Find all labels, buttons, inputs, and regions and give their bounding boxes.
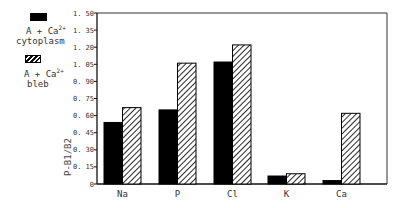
bar-na-bleb <box>123 108 142 184</box>
y-tick-label: 0. 60 <box>73 112 94 120</box>
y-tick-label: 1. 20 <box>73 44 94 52</box>
bar-p-cytoplasm <box>159 110 178 184</box>
bar-p-bleb <box>178 63 197 184</box>
y-tick-label: 0. 75 <box>73 95 94 103</box>
x-tick-label: K <box>284 189 290 199</box>
x-tick-label: Na <box>117 189 128 199</box>
y-tick-label: 1. 35 <box>73 27 94 35</box>
legend-swatch-cytoplasm <box>30 13 47 21</box>
legend-swatch-bleb <box>25 55 41 63</box>
bar-k-cytoplasm <box>268 176 287 184</box>
x-axis-labels: NaPClKCa <box>117 189 347 199</box>
bar-k-bleb <box>287 174 306 184</box>
y-tick-label: 1. 05 <box>73 61 94 69</box>
bars <box>104 45 360 184</box>
y-tick-label: 0. 45 <box>73 129 94 137</box>
bar-cl-bleb <box>233 45 252 184</box>
y-tick-label: 0. 15 <box>73 163 94 171</box>
y-tick-label: 0 <box>90 181 94 189</box>
y-tick-label: 0. 30 <box>73 146 94 154</box>
legend-label-bleb: A + Ca2+ bleb <box>24 66 64 89</box>
bar-na-cytoplasm <box>104 122 123 184</box>
x-tick-label: Cl <box>227 189 238 199</box>
y-tick-label: 1. 50 <box>73 10 94 18</box>
bar-cl-cytoplasm <box>214 62 233 184</box>
y-tick-label: 0. 90 <box>73 78 94 86</box>
x-tick-label: Ca <box>336 189 347 199</box>
bar-ca-cytoplasm <box>323 181 342 184</box>
y-axis-label: P-B1/B2 <box>63 138 73 176</box>
x-tick-label: P <box>175 189 181 199</box>
bar-ca-bleb <box>342 113 361 184</box>
legend-label-cytoplasm: A + Ca2+ cytoplasm <box>26 23 66 46</box>
